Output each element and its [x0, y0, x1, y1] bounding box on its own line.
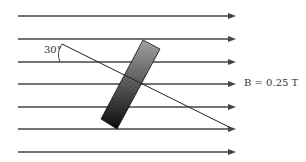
arrowhead-icon: [228, 59, 236, 65]
arrowhead-icon: [228, 13, 236, 19]
arrowhead-icon: [228, 36, 236, 42]
arrowhead-icon: [228, 104, 236, 110]
arrowhead-icon: [228, 81, 236, 87]
angle-label: 30°: [44, 44, 62, 55]
arrowhead-icon: [228, 149, 236, 155]
arrowhead-icon: [228, 126, 236, 132]
magnetic-field-diagram: 30° B = 0.25 T: [0, 0, 306, 162]
field-strength-label: B = 0.25 T: [244, 77, 298, 88]
